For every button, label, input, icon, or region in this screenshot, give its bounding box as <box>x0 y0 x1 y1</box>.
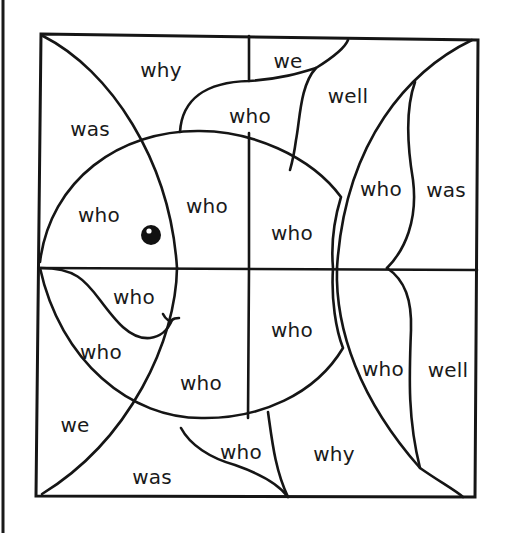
fish-eye-highlight <box>146 228 151 233</box>
horizontal-midline <box>39 268 477 270</box>
word-well-right-lower[interactable]: well <box>428 360 469 380</box>
word-who-body-upper-right[interactable]: who <box>271 223 313 243</box>
top-fin-back-edge <box>290 68 316 170</box>
body-vertical-line <box>248 133 249 418</box>
word-who-tail-upper[interactable]: who <box>360 179 402 199</box>
word-we-top-fin[interactable]: we <box>273 51 302 71</box>
word-we-bottom-left[interactable]: we <box>60 415 89 435</box>
word-why-bottom-right[interactable]: why <box>313 444 354 464</box>
word-well-top-right[interactable]: well <box>328 86 369 106</box>
tail-upper-arc <box>337 40 472 268</box>
left-lower-arc <box>42 268 177 494</box>
word-who-head[interactable]: who <box>78 205 120 225</box>
word-who-body-upper-left[interactable]: who <box>186 196 228 216</box>
word-who-mouth[interactable]: who <box>113 287 155 307</box>
word-who-bottom-fin[interactable]: who <box>220 442 262 462</box>
bottom-fin-back-edge <box>268 412 288 497</box>
word-was-left[interactable]: was <box>70 119 110 139</box>
word-who-tail-lower[interactable]: who <box>362 359 404 379</box>
word-who-chin[interactable]: who <box>80 342 122 362</box>
word-was-right-upper[interactable]: was <box>426 180 466 200</box>
tail-upper-wave <box>387 82 415 268</box>
word-who-body-lower-left[interactable]: who <box>180 373 222 393</box>
word-who-body-lower-right[interactable]: who <box>271 320 313 340</box>
tail-lower-arc <box>337 268 463 497</box>
fish-eye <box>141 225 161 245</box>
word-was-bottom[interactable]: was <box>132 467 172 487</box>
word-why-top-left[interactable]: why <box>140 60 181 80</box>
word-who-top-fin[interactable]: who <box>229 106 271 126</box>
